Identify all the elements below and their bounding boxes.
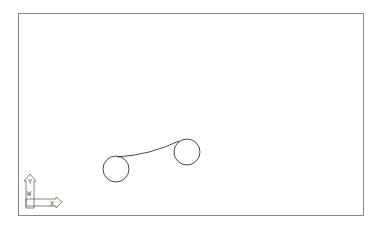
drawing-canvas[interactable]: Y W X: [0, 0, 378, 226]
tangent-arc[interactable]: [117, 141, 179, 157]
viewport-frame: [19, 14, 364, 216]
ucs-y-label: Y: [28, 178, 33, 186]
ucs-x-label: X: [50, 200, 55, 208]
circle-left[interactable]: [103, 156, 129, 182]
ucs-w-label: W: [27, 190, 32, 198]
circle-right[interactable]: [174, 139, 200, 165]
drawing-svg[interactable]: Y W X: [0, 0, 378, 226]
